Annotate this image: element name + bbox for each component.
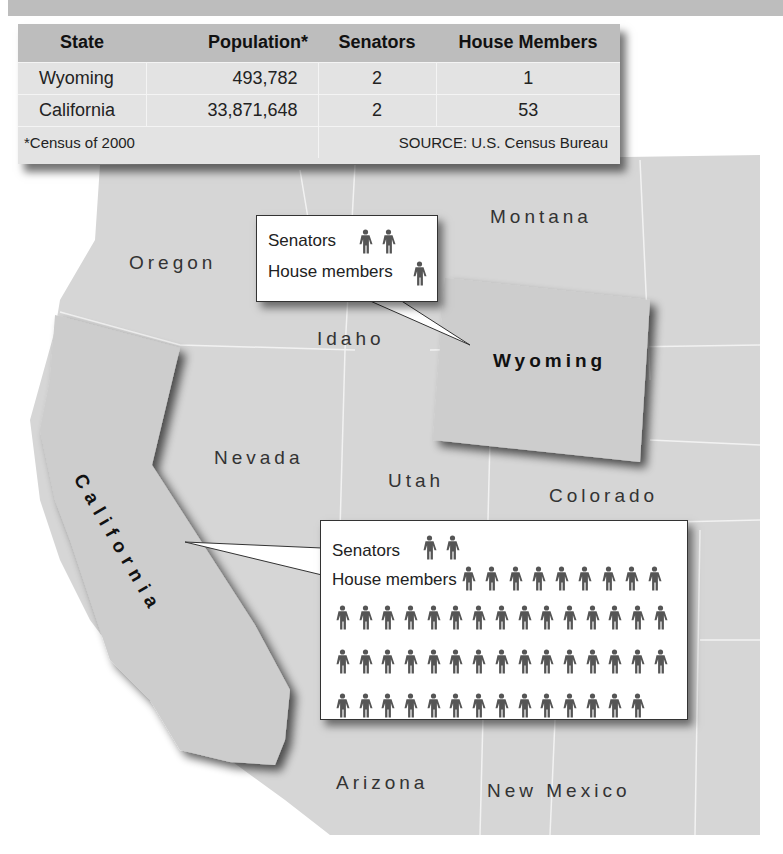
header-house-members: House Members [436, 24, 620, 62]
person-icon [354, 605, 377, 630]
person-icon [467, 649, 490, 674]
wyoming-senators-label: Senators [268, 231, 336, 251]
person-icon [376, 605, 399, 630]
label-wyoming: Wyoming [493, 350, 606, 372]
cell-house: 53 [436, 94, 620, 126]
california-senators-label: Senators [332, 541, 400, 561]
person-icon [399, 605, 422, 630]
cell-population: 33,871,648 [146, 94, 318, 126]
person-icon [444, 649, 467, 674]
person-icon [603, 693, 626, 718]
california-house-label: House members [332, 570, 457, 590]
person-icon [490, 605, 513, 630]
person-icon [535, 693, 558, 718]
person-icon [581, 605, 604, 630]
person-icon [399, 649, 422, 674]
person-icon [354, 649, 377, 674]
data-table: State Population* Senators House Members… [18, 24, 620, 158]
person-icon [513, 605, 536, 630]
person-icon [581, 649, 604, 674]
person-icon [422, 693, 445, 718]
person-icon [535, 649, 558, 674]
california-house-icons [331, 605, 671, 718]
wyoming-house-label: House members [268, 262, 393, 282]
person-icon [331, 693, 354, 718]
header-senators: Senators [318, 24, 436, 62]
person-icon [490, 649, 513, 674]
person-icon [457, 566, 480, 591]
footnote: *Census of 2000 [18, 126, 318, 158]
source-note: SOURCE: U.S. Census Bureau [318, 126, 620, 158]
label-new-mexico: New Mexico [487, 780, 630, 802]
cell-house: 1 [436, 62, 620, 94]
person-icon [331, 605, 354, 630]
person-icon [558, 693, 581, 718]
person-icon [603, 649, 626, 674]
label-nevada: Nevada [214, 447, 304, 469]
person-icon [376, 649, 399, 674]
person-icon [527, 566, 550, 591]
cell-senators: 2 [318, 62, 436, 94]
person-icon [331, 649, 354, 674]
person-icon [376, 693, 399, 718]
person-icon [399, 693, 422, 718]
header-state: State [18, 24, 146, 62]
person-icon [581, 693, 604, 718]
person-icon [480, 566, 503, 591]
label-oregon: Oregon [129, 252, 216, 274]
person-icon [513, 693, 536, 718]
data-table-panel: State Population* Senators House Members… [18, 24, 620, 164]
person-icon [626, 649, 649, 674]
wyoming-senators-icons [354, 229, 400, 254]
person-icon [354, 229, 377, 254]
table-row: California 33,871,648 2 53 [18, 94, 620, 126]
person-icon [597, 566, 620, 591]
person-icon [354, 693, 377, 718]
person-icon [649, 649, 672, 674]
california-senators-icons [418, 535, 464, 560]
table-footer-row: *Census of 2000 SOURCE: U.S. Census Bure… [18, 126, 620, 158]
person-icon [444, 605, 467, 630]
person-icon [513, 649, 536, 674]
person-icon [550, 566, 573, 591]
wyoming-house-icons [408, 261, 431, 286]
label-colorado: Colorado [549, 485, 658, 507]
table-header-row: State Population* Senators House Members [18, 24, 620, 62]
header-population: Population* [146, 24, 318, 62]
label-montana: Montana [490, 206, 592, 228]
person-icon [504, 566, 527, 591]
person-icon [408, 261, 431, 286]
person-icon [422, 649, 445, 674]
label-idaho: Idaho [317, 328, 385, 350]
table-row: Wyoming 493,782 2 1 [18, 62, 620, 94]
label-arizona: Arizona [336, 772, 428, 794]
cell-state: California [18, 94, 146, 126]
person-icon [377, 229, 400, 254]
label-utah: Utah [388, 470, 444, 492]
person-icon [573, 566, 596, 591]
cell-population: 493,782 [146, 62, 318, 94]
person-icon [603, 605, 626, 630]
person-icon [422, 605, 445, 630]
person-icon [467, 693, 490, 718]
cell-state: Wyoming [18, 62, 146, 94]
person-icon [626, 693, 649, 718]
person-icon [535, 605, 558, 630]
person-icon [626, 605, 649, 630]
california-house-icons-first-row [457, 566, 666, 591]
person-icon [558, 649, 581, 674]
person-icon [490, 693, 513, 718]
person-icon [467, 605, 490, 630]
person-icon [418, 535, 441, 560]
person-icon [620, 566, 643, 591]
person-icon [649, 605, 672, 630]
person-icon [558, 605, 581, 630]
person-icon [444, 693, 467, 718]
wyoming-callout: Senators House members [256, 215, 438, 302]
person-icon [441, 535, 464, 560]
cell-senators: 2 [318, 94, 436, 126]
california-callout: Senators House members [320, 520, 688, 720]
person-icon [643, 566, 666, 591]
